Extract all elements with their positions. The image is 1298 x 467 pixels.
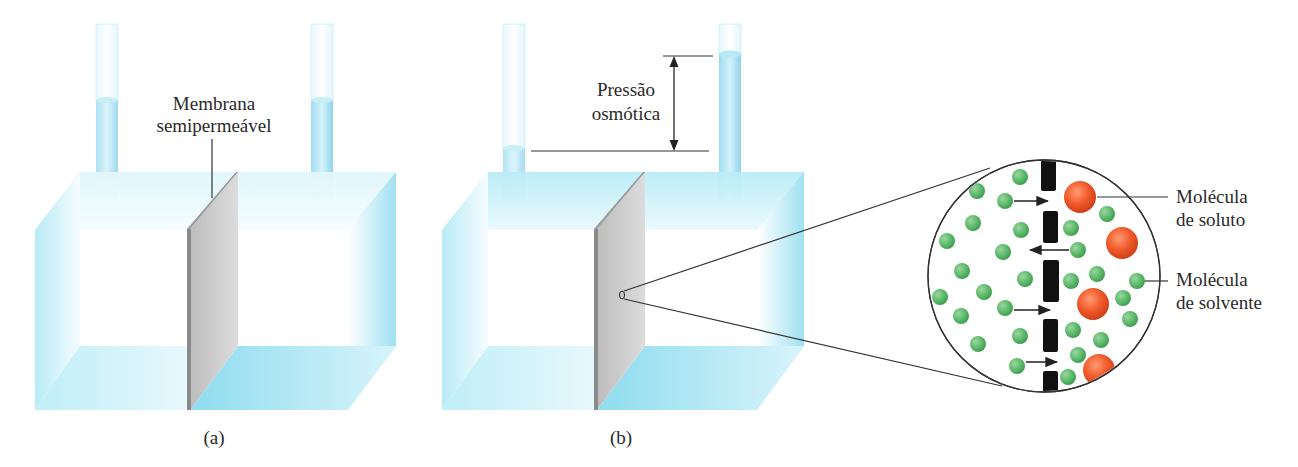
pressure-label-2: osmótica — [592, 103, 661, 124]
right-tube-empty-b — [719, 24, 741, 54]
right-tube-empty — [311, 24, 333, 100]
membrane-label-1: Membrana — [173, 93, 256, 114]
panel-b-apparatus: Pressão osmótica (b) — [442, 24, 1002, 449]
panel-a-apparatus: Membrana semipermeável (a) — [35, 24, 396, 449]
magnified-membrane-view: Molécula de soluto Molécula de solvente — [928, 155, 1262, 401]
solvent-label-1: Molécula — [1176, 269, 1248, 290]
membrane-label-2: semipermeável — [156, 115, 271, 136]
solute-label-1: Molécula — [1176, 186, 1248, 207]
osmosis-diagram: Membrana semipermeável (a) Pr — [0, 0, 1298, 467]
pressure-label-1: Pressão — [597, 79, 655, 100]
solute-label-2: de soluto — [1176, 209, 1245, 230]
caption-b: (b) — [610, 427, 632, 449]
left-tube-empty-b — [503, 24, 525, 148]
left-tube-empty — [96, 24, 118, 100]
solvent-label-2: de solvente — [1176, 292, 1262, 313]
caption-a: (a) — [203, 427, 224, 449]
